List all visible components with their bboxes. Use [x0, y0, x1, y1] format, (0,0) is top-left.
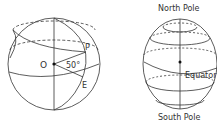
center-point-right [179, 61, 182, 64]
diagram-canvas: O P E 50° North Pole South Pole Equator [0, 0, 217, 123]
label-o: O [40, 60, 47, 70]
label-e: E [82, 81, 87, 90]
label-equator: Equator [185, 71, 217, 80]
label-north-pole: North Pole [158, 4, 200, 13]
label-angle: 50° [66, 61, 80, 70]
right-sphere [143, 19, 217, 109]
label-south-pole: South Pole [158, 113, 200, 122]
center-point [52, 62, 55, 65]
label-p: P [85, 43, 90, 52]
